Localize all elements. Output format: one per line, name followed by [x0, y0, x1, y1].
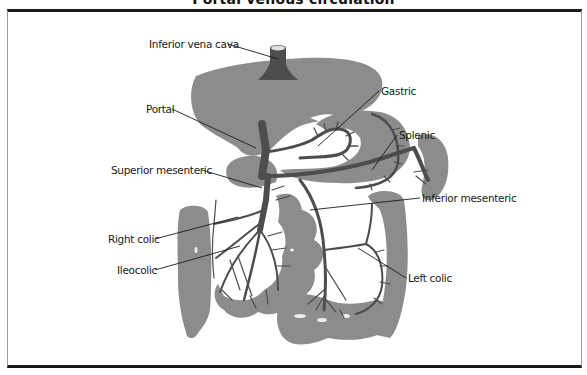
- label-portal: Portal: [146, 103, 174, 115]
- label-inferior-vena-cava: Inferior vena cava: [149, 38, 239, 50]
- label-splenic: Splenic: [399, 129, 435, 141]
- label-gastric: Gastric: [381, 85, 416, 97]
- label-right-colic: Right colic: [108, 233, 160, 245]
- label-left-colic: Left colic: [408, 272, 452, 284]
- label-superior-mesenteric: Superior mesenteric: [111, 164, 212, 176]
- label-inferior-mesenteric: Inferior mesenteric: [422, 192, 516, 204]
- label-ileocolic: Ileocolic: [117, 264, 157, 276]
- anatomy-illustration: [0, 0, 587, 375]
